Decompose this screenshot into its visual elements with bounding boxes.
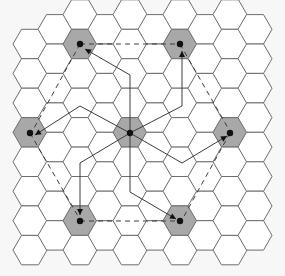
node-bottom-right bbox=[177, 218, 183, 224]
node-right bbox=[227, 130, 233, 136]
hex-grid-diagram bbox=[0, 0, 285, 276]
node-left bbox=[27, 130, 33, 136]
node-bottom-left bbox=[77, 218, 83, 224]
node-top-left bbox=[77, 41, 83, 47]
hex-grid bbox=[13, 0, 272, 265]
node-top-right bbox=[177, 41, 183, 47]
node-center bbox=[127, 130, 133, 136]
